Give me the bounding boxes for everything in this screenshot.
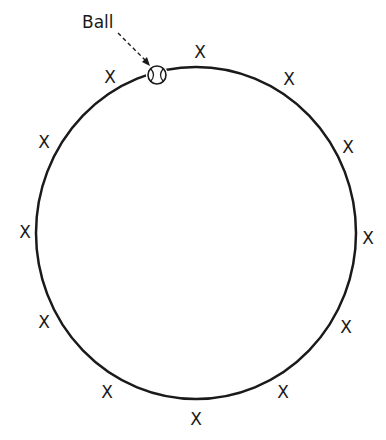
player-markers: XXXXXXXXXXXX <box>19 42 374 429</box>
player-marker: X <box>194 42 206 62</box>
player-marker: X <box>283 69 295 89</box>
circle-formation-diagram: Ball XXXXXXXXXXXX <box>0 0 386 440</box>
player-marker: X <box>277 382 289 402</box>
dashed-arrow-icon <box>118 33 150 66</box>
player-marker: X <box>38 132 50 152</box>
formation-circle <box>36 67 356 399</box>
player-marker: X <box>340 317 352 337</box>
player-marker: X <box>342 137 354 157</box>
player-marker: X <box>19 222 31 242</box>
ball-icon <box>148 66 166 84</box>
player-marker: X <box>104 67 116 87</box>
player-marker: X <box>362 228 374 248</box>
ball-label: Ball <box>82 12 114 32</box>
player-marker: X <box>38 312 50 332</box>
player-marker: X <box>190 409 202 429</box>
player-marker: X <box>101 382 113 402</box>
